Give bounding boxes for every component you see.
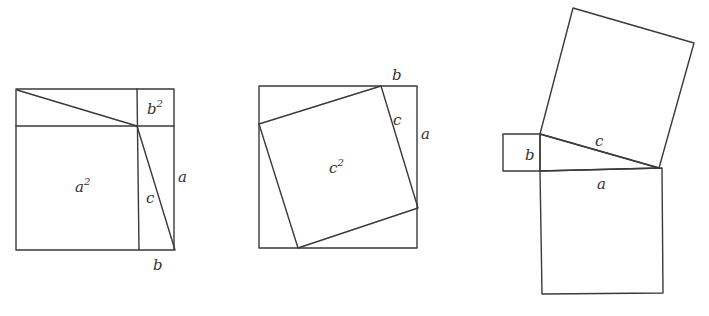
figure-squares-on-sides: b c a (503, 8, 694, 294)
label-a: a (597, 175, 606, 193)
pythagorean-proof-diagrams: a2 b2 c a b c2 c a b b c a (0, 0, 709, 316)
label-c: c (393, 111, 402, 129)
label-c-squared: c2 (329, 157, 344, 177)
label-b: b (153, 256, 163, 274)
vertical-divider (137, 89, 139, 250)
label-c: c (146, 189, 155, 207)
label-a: a (421, 125, 430, 143)
label-a: a (178, 168, 187, 186)
label-b-squared: b2 (147, 98, 163, 118)
diagonal-top (17, 90, 137, 126)
figure-rearranged-squares: a2 b2 c a b (16, 89, 187, 274)
square-on-c (540, 8, 694, 168)
label-b: b (525, 146, 535, 164)
label-b: b (392, 66, 402, 84)
label-a-squared: a2 (75, 176, 90, 196)
figure-tilted-square: c2 c a b (259, 66, 430, 248)
label-c: c (595, 132, 604, 150)
diagonal-c (137, 126, 175, 250)
